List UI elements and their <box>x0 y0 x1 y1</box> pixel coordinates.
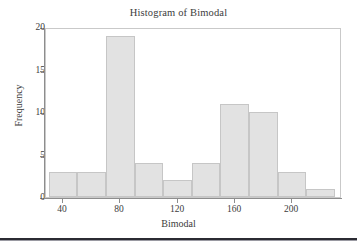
x-tick-mark <box>62 199 63 203</box>
histogram-figure: Histogram of Bimodal Frequency 05101520 … <box>0 0 357 248</box>
x-tick-mark <box>119 199 120 203</box>
x-tick-mark <box>177 199 178 203</box>
histogram-bar <box>278 172 307 198</box>
histogram-bar <box>220 104 249 198</box>
bottom-divider-shadow <box>0 240 357 241</box>
y-tick-label: 20 <box>7 23 45 33</box>
histogram-bar <box>192 163 221 197</box>
y-tick-label: 10 <box>7 108 45 118</box>
histogram-bar <box>306 189 335 198</box>
x-axis-line <box>45 198 342 199</box>
chart-title: Histogram of Bimodal <box>0 7 357 18</box>
y-tick-label: 5 <box>7 151 45 161</box>
x-tick-mark <box>234 199 235 203</box>
x-tick-label: 120 <box>157 205 197 215</box>
histogram-bar <box>49 172 78 198</box>
histogram-bar <box>163 180 192 197</box>
y-axis-ticks: 05101520 <box>0 0 45 248</box>
x-tick-label: 80 <box>99 205 139 215</box>
histogram-bar <box>77 172 106 198</box>
histogram-bar <box>249 112 278 197</box>
x-tick-label: 160 <box>214 205 254 215</box>
y-tick-label: 0 <box>7 193 45 203</box>
plot-area <box>45 28 341 198</box>
x-tick-label: 200 <box>271 205 311 215</box>
x-tick-mark <box>291 199 292 203</box>
bars-layer <box>46 29 340 197</box>
histogram-bar <box>106 36 135 198</box>
histogram-bar <box>135 163 164 197</box>
x-axis-title: Bimodal <box>0 218 357 229</box>
y-tick-label: 15 <box>7 66 45 76</box>
x-tick-label: 40 <box>42 205 82 215</box>
